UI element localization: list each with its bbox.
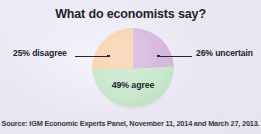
pie-chart: [92, 28, 174, 110]
slice-label-uncertain: 26% uncertain: [196, 48, 253, 58]
slice-label-disagree: 25% disagree: [13, 48, 67, 58]
slice-label-agree: 49% agree: [92, 80, 174, 90]
source-note: Source: IGM Economic Experts Panel, Nove…: [0, 119, 261, 128]
figure-container: What do economists say? 25% disagree 26%…: [0, 0, 261, 134]
pie-sheen: [92, 28, 174, 110]
pie-svg: [92, 28, 174, 110]
leader-line-disagree: [75, 56, 109, 57]
leader-dot-uncertain: [157, 55, 160, 58]
leader-line-uncertain: [158, 56, 192, 57]
leader-dot-disagree: [107, 55, 110, 58]
chart-title: What do economists say?: [0, 7, 261, 21]
